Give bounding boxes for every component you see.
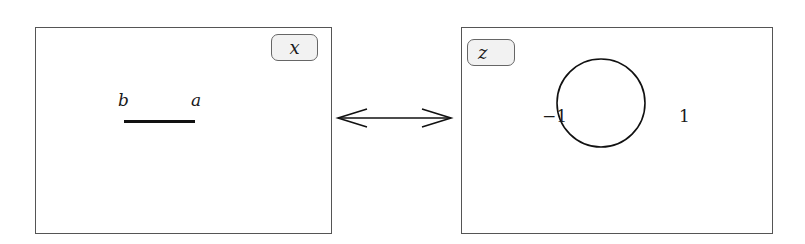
label-minus-one: −1 (542, 106, 567, 126)
label-one: 1 (679, 106, 690, 126)
unit-circle-icon (462, 28, 774, 235)
z-plane-panel: z −1 1 (461, 27, 773, 234)
